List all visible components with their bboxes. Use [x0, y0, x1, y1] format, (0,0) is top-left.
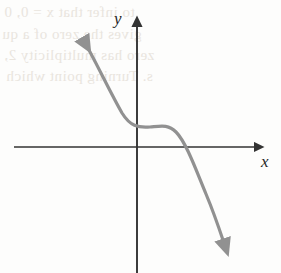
cubic-curve	[84, 41, 224, 243]
y-axis-label: y	[114, 10, 122, 27]
graph-figure: to infer that x = 0, 0 gives the zero of…	[0, 0, 281, 273]
graph-canvas	[0, 0, 281, 273]
x-axis-label: x	[261, 153, 269, 170]
